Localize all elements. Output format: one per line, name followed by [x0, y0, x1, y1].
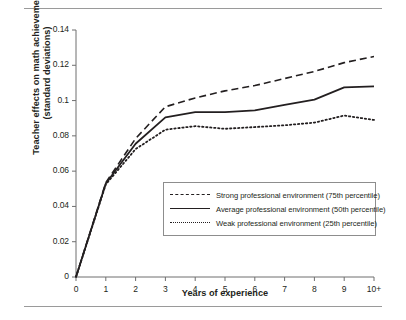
- data-series-group: [76, 56, 374, 277]
- y-axis-title-line2: (standard deviations): [42, 27, 52, 120]
- x-axis-title: Years of experience: [76, 288, 374, 298]
- legend-item[interactable]: Weak professional environment (25th perc…: [170, 216, 369, 230]
- legend-item[interactable]: Strong professional environment (75th pe…: [170, 188, 369, 202]
- chart-legend: Strong professional environment (75th pe…: [163, 182, 376, 236]
- y-axis-title: Teacher effects on math achievement (sta…: [29, 0, 55, 193]
- y-tick-label: 0: [25, 271, 69, 281]
- legend-item-label: Average professional environment (50th p…: [216, 205, 386, 214]
- y-tick-label: 0.04: [25, 200, 69, 210]
- legend-line-swatch-dotted-icon: [170, 218, 210, 228]
- y-axis-title-line1: Teacher effects on math achievement: [31, 0, 41, 155]
- y-tick-marks: [72, 30, 76, 277]
- legend-item-label: Strong professional environment (75th pe…: [216, 191, 380, 200]
- legend-item-label: Weak professional environment (25th perc…: [216, 219, 377, 228]
- chart-figure: 00.020.040.060.080.10.120.14 01234567891…: [0, 0, 406, 320]
- legend-line-swatch-solid-icon: [170, 204, 210, 214]
- x-tick-marks: [76, 277, 374, 281]
- y-tick-label: 0.02: [25, 236, 69, 246]
- legend-item[interactable]: Average professional environment (50th p…: [170, 202, 369, 216]
- legend-line-swatch-dashed-icon: [170, 190, 210, 200]
